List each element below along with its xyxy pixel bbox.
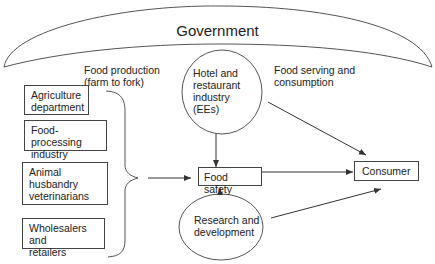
research-development-label: Research and development: [194, 214, 259, 238]
grouping-brace: [106, 91, 138, 257]
food-production-label: Food production (farm to fork): [84, 64, 160, 88]
animal-husbandry-box: Animal husbandry veterinarians: [22, 162, 108, 205]
hotel-restaurant-label: Hotel and restaurant industry (EEs): [193, 67, 240, 115]
agriculture-department-box: Agriculture department: [24, 85, 89, 115]
wholesalers-retailers-box: Wholesalers and retailers: [22, 218, 105, 249]
consumer-box: Consumer: [354, 161, 419, 181]
arrow-hotel-to-consumer: [268, 102, 366, 155]
food-processing-industry-box: Food-processing industry: [24, 120, 107, 151]
arrow-research-to-consumer: [271, 189, 381, 218]
food-safety-box: Food safety: [198, 167, 262, 186]
government-label: Government: [0, 22, 435, 39]
food-serving-label: Food serving and consumption: [274, 64, 355, 88]
